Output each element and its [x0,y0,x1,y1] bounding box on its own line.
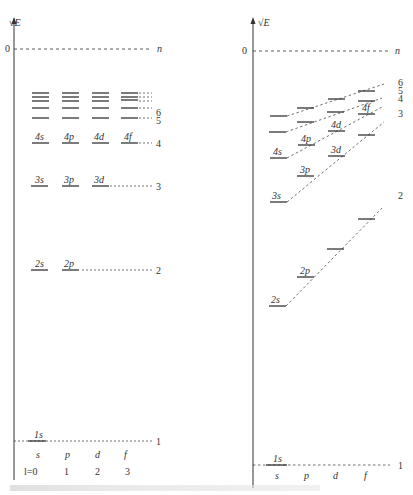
svg-text:4d: 4d [94,131,105,142]
svg-text:n: n [395,45,400,56]
svg-text:4s: 4s [273,146,282,157]
svg-text:4s: 4s [35,131,44,142]
right-panel [251,17,391,488]
svg-text:f: f [124,449,128,460]
svg-text:4f: 4f [124,131,133,142]
svg-text:2: 2 [156,265,161,276]
svg-text:2p: 2p [64,258,74,269]
svg-text:p: p [303,470,309,481]
svg-text:f: f [364,470,368,481]
svg-text:3d: 3d [93,174,105,185]
svg-text:2: 2 [95,466,100,477]
svg-text:3p: 3p [63,174,74,185]
svg-text:3: 3 [156,181,161,192]
svg-text:1s: 1s [34,429,43,440]
svg-text:4f: 4f [362,102,371,113]
svg-text:0: 0 [5,43,10,54]
svg-text:4p: 4p [301,133,311,144]
svg-text:√E: √E [258,17,270,28]
svg-text:2s: 2s [35,258,44,269]
svg-text:2p: 2p [300,265,310,276]
svg-text:n: n [157,43,162,54]
svg-text:4p: 4p [64,131,74,142]
svg-text:1: 1 [398,460,403,471]
svg-text:l=0: l=0 [24,466,37,477]
svg-text:5: 5 [156,115,161,126]
svg-text:2s: 2s [271,294,280,305]
svg-text:3d: 3d [330,144,342,155]
svg-text:d: d [95,449,101,460]
svg-text:√E: √E [9,17,21,28]
svg-text:4d: 4d [331,119,342,130]
svg-text:2: 2 [398,190,403,201]
svg-text:1s: 1s [273,453,282,464]
svg-text:d: d [333,470,339,481]
left-panel [12,17,153,480]
svg-text:4: 4 [398,93,403,104]
svg-text:3s: 3s [271,190,281,201]
energy-level-diagram: √E 0 n 4s 4p 4d 4f 3s 3p 3d 2s 2p 1s 6 5… [0,0,413,495]
svg-text:3s: 3s [34,174,44,185]
svg-text:p: p [64,449,70,460]
svg-text:3: 3 [398,108,403,119]
right-labels: √E 0 n 4s 4p 4d 4f 3s 3p 3d 2s 2p 1s 6 5… [242,17,403,481]
svg-text:1: 1 [156,436,161,447]
svg-text:3p: 3p [299,164,310,175]
svg-text:0: 0 [242,45,247,56]
svg-text:1: 1 [64,466,69,477]
svg-text:s: s [275,470,279,481]
svg-text:s: s [36,449,40,460]
svg-text:3: 3 [125,466,130,477]
arrow-up-icon [251,17,256,24]
caption-cutoff [10,485,320,491]
svg-text:4: 4 [156,138,161,149]
left-labels: √E 0 n 4s 4p 4d 4f 3s 3p 3d 2s 2p 1s 6 5… [5,17,162,477]
